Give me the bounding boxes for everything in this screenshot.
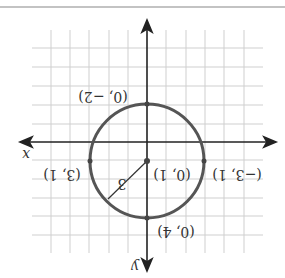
point-top [145,102,150,107]
label-point-bottom: (0, 4) [157,224,195,240]
point-bottom [145,216,150,221]
point-right [202,159,207,164]
label-x-axis: x [22,147,30,163]
label-point-top: (0, −2) [78,89,127,105]
point-center [144,158,150,164]
point-left [88,159,93,164]
label-point-left: (3, 1) [43,167,81,183]
label-y-axis: y [130,259,140,275]
label-center: (0, 1) [153,167,191,183]
label-radius: 3 [118,176,127,192]
axes [20,20,276,271]
circle-diagram: (0, −2) (0, 1) (0, 4) (3, 1) (−3, 1) 3 x… [0,0,285,278]
label-point-right: (−3, 1) [212,167,261,183]
